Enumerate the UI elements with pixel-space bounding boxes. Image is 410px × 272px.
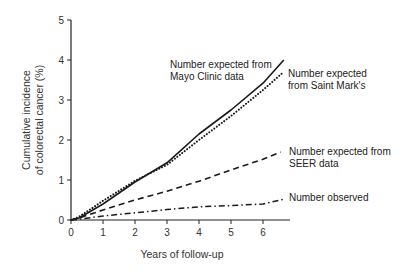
annotation-seer: Number expected from SEER data	[289, 146, 391, 169]
y-tick-label: 0	[58, 215, 64, 226]
y-tick-label: 4	[58, 55, 64, 66]
svg-text:Number expected from: Number expected from	[289, 146, 391, 157]
series-lines	[71, 60, 284, 220]
svg-text:Number expected from: Number expected from	[170, 59, 272, 70]
x-tick-label: 0	[68, 227, 74, 238]
x-tick-label: 3	[164, 227, 170, 238]
y-axis-title: Cumulative incidence of colorectal cance…	[20, 65, 45, 175]
series-saint-marks	[71, 73, 282, 220]
svg-text:Number observed: Number observed	[289, 192, 368, 203]
annotation-mayo: Number expected from Mayo Clinic data	[170, 59, 272, 82]
annotation-observed: Number observed	[289, 192, 368, 203]
x-tick-label: 5	[228, 227, 234, 238]
chart-canvas: 012345 0123456 Years of follow-up Cumula…	[0, 0, 410, 272]
x-ticks: 0123456	[68, 220, 266, 238]
y-tick-label: 1	[58, 175, 64, 186]
series-mayo-clinic	[71, 60, 284, 220]
x-tick-label: 4	[196, 227, 202, 238]
series-seer	[71, 152, 281, 220]
svg-text:Cumulative incidence: Cumulative incidence	[20, 70, 32, 170]
y-tick-label: 5	[58, 15, 64, 26]
x-axis-title: Years of follow-up	[140, 248, 223, 260]
svg-text:Mayo Clinic data: Mayo Clinic data	[170, 71, 244, 82]
x-tick-label: 2	[132, 227, 138, 238]
x-tick-label: 6	[260, 227, 266, 238]
y-tick-label: 3	[58, 95, 64, 106]
x-tick-label: 1	[100, 227, 106, 238]
y-ticks: 012345	[58, 15, 71, 226]
y-tick-label: 2	[58, 135, 64, 146]
svg-text:SEER data: SEER data	[289, 158, 339, 169]
svg-text:Number expected: Number expected	[288, 68, 367, 79]
svg-text:from Saint Mark's: from Saint Mark's	[288, 80, 365, 91]
annotation-saint-marks: Number expected from Saint Mark's	[288, 68, 367, 91]
svg-text:of colorectal cancer (%): of colorectal cancer (%)	[33, 65, 45, 175]
